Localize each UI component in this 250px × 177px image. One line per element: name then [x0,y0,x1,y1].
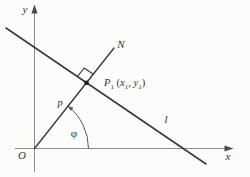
y-axis-arrowhead [31,5,37,14]
angle-phi-label: φ [71,127,77,139]
normal-line-label: N [116,38,125,50]
figure-normal-form-of-line: y x O N l p φ P1 (x1, y1) [0,0,250,177]
x-axis-label: x [225,150,231,162]
point-p1-dot [84,81,89,86]
right-angle-marker [77,68,93,77]
origin-label: O [18,149,26,161]
point-p1-label: P1 (x1, y1) [103,77,146,91]
line-l-label: l [164,113,167,125]
p1-close-paren: ) [142,77,146,89]
y-axis-label: y [22,3,28,15]
line-l [6,28,206,164]
distance-p-label: p [56,97,62,108]
